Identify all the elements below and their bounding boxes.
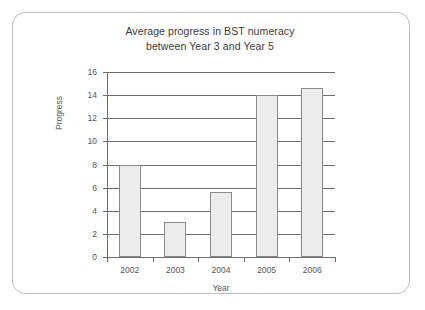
y-axis-tick-label: 12	[88, 113, 97, 123]
gridline	[107, 72, 335, 73]
x-axis-label: Year	[107, 283, 335, 293]
x-axis-end-tick	[107, 257, 108, 262]
bar-2006	[301, 88, 323, 257]
chart-title-line-1: Average progress in BST numeracy	[60, 24, 360, 39]
x-axis-tick	[289, 257, 290, 262]
chart-figure: Average progress in BST numeracy between…	[0, 0, 425, 310]
plot-area: 0246810121416 20022003200420052006	[107, 72, 335, 257]
y-axis-tick: 16	[103, 72, 107, 73]
y-axis-tick-label: 4	[92, 206, 97, 216]
y-axis-tick: 10	[103, 141, 107, 142]
y-axis-tick-label: 14	[88, 90, 97, 100]
y-axis-tick-label: 0	[92, 252, 97, 262]
x-axis-tick-label-2005: 2005	[257, 265, 276, 275]
y-axis-tick: 6	[103, 188, 107, 189]
x-axis-tick	[153, 257, 154, 262]
bar-2005	[256, 95, 278, 257]
x-axis-line	[107, 257, 335, 258]
x-axis-end-tick	[335, 257, 336, 262]
chart-title: Average progress in BST numeracy between…	[60, 24, 360, 54]
y-axis-tick: 12	[103, 118, 107, 119]
bar-2002	[119, 165, 141, 258]
x-axis-tick-label-2006: 2006	[303, 265, 322, 275]
bar-2003	[164, 222, 186, 257]
x-axis-tick	[244, 257, 245, 262]
y-axis-tick: 8	[103, 165, 107, 166]
y-axis-tick: 4	[103, 211, 107, 212]
y-axis-label: Progress	[54, 96, 64, 130]
y-axis-tick: 14	[103, 95, 107, 96]
y-axis-tick-label: 8	[92, 160, 97, 170]
y-axis-tick-label: 10	[88, 136, 97, 146]
y-axis-tick-label: 6	[92, 183, 97, 193]
x-axis-tick-label-2004: 2004	[212, 265, 231, 275]
y-axis-tick-label: 16	[88, 67, 97, 77]
bar-2004	[210, 192, 232, 257]
x-axis-tick-label-2003: 2003	[166, 265, 185, 275]
y-axis-tick-label: 2	[92, 229, 97, 239]
x-axis-tick	[198, 257, 199, 262]
x-axis-tick-label-2002: 2002	[120, 265, 139, 275]
chart-title-line-2: between Year 3 and Year 5	[60, 39, 360, 54]
y-axis-tick: 2	[103, 234, 107, 235]
